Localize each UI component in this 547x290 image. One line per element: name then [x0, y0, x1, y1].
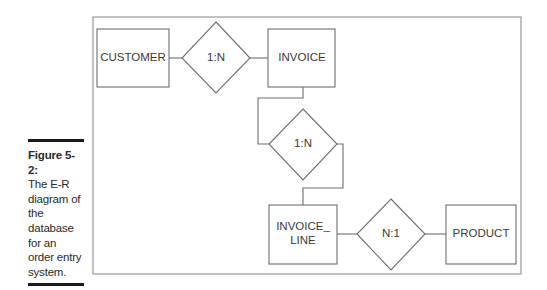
entity-invoice-line-label-1: INVOICE_ [276, 220, 330, 232]
entity-customer: CUSTOMER [97, 29, 169, 87]
entity-invoice-line-label-2: LINE [290, 234, 316, 246]
relationship-invoice-invoice-line: 1:N [269, 109, 337, 180]
relationship-customer-invoice: 1:N [182, 22, 250, 93]
entity-product-label: PRODUCT [453, 227, 510, 239]
relationship-invoice-line-product-label: N:1 [382, 227, 400, 239]
relationship-customer-invoice-label: 1:N [207, 51, 225, 63]
relationship-invoice-invoice-line-label: 1:N [294, 137, 312, 149]
entity-customer-label: CUSTOMER [100, 51, 166, 63]
entity-invoice-label: INVOICE [278, 51, 326, 63]
entity-invoice-line: INVOICE_ LINE [269, 205, 337, 264]
entity-product: PRODUCT [446, 205, 516, 264]
er-diagram: CUSTOMER 1:N INVOICE 1:N INVOICE_ LINE N… [0, 0, 547, 290]
entity-invoice: INVOICE [268, 29, 335, 87]
relationship-invoice-line-product: N:1 [357, 199, 425, 270]
